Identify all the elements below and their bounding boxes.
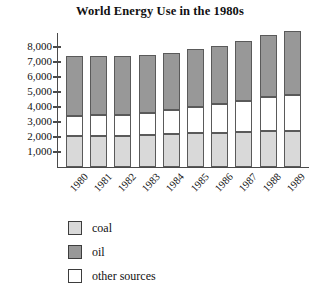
legend-swatch-icon	[68, 269, 82, 283]
plot-area: 1,0002,0003,0004,0005,0006,0007,0008,000…	[0, 0, 320, 180]
y-axis-tick-label: 1,000	[0, 146, 52, 157]
legend-item-coal: coal	[68, 216, 298, 240]
stacked-bar	[163, 0, 180, 167]
bar-segment-coal	[187, 133, 204, 167]
bar-segment-other-sources	[235, 101, 252, 132]
legend-item-oil: oil	[68, 240, 298, 264]
stacked-bar	[66, 0, 83, 167]
x-axis-line	[57, 167, 309, 168]
bar-segment-coal	[90, 136, 107, 168]
bar-segment-oil	[66, 56, 83, 116]
y-axis-tick-mark	[53, 61, 61, 62]
bar-segment-oil	[163, 53, 180, 110]
y-axis-tick-label: 5,000	[0, 86, 52, 97]
bar-segment-other-sources	[114, 115, 131, 136]
y-axis-tick-label: 7,000	[0, 56, 52, 67]
legend-item-other-sources: other sources	[68, 264, 298, 288]
stacked-bar	[235, 0, 252, 167]
y-axis-tick-mark	[53, 46, 61, 47]
legend-label: coal	[92, 221, 112, 236]
legend-swatch-icon	[68, 245, 82, 259]
stacked-bar	[211, 0, 228, 167]
chart-legend: coaloilother sources	[68, 216, 298, 288]
bar-segment-other-sources	[163, 110, 180, 134]
bar-segment-oil	[139, 55, 156, 113]
y-axis-tick-label: 6,000	[0, 71, 52, 82]
bar-segment-oil	[260, 35, 277, 97]
y-axis-tick-label: 4,000	[0, 101, 52, 112]
bar-segment-coal	[114, 136, 131, 168]
bar-segment-oil	[284, 31, 301, 96]
bar-segment-coal	[211, 133, 228, 168]
bar-segment-oil	[211, 46, 228, 104]
stacked-bar	[90, 0, 107, 167]
y-axis-tick-label: 3,000	[0, 116, 52, 127]
bar-segment-oil	[114, 56, 131, 115]
bar-segment-other-sources	[284, 95, 301, 131]
y-axis-tick-mark	[53, 136, 61, 137]
bar-segment-other-sources	[90, 115, 107, 135]
bar-segment-coal	[139, 135, 156, 167]
y-axis-tick-mark	[53, 91, 61, 92]
bar-segment-coal	[66, 136, 83, 168]
bar-segment-coal	[163, 134, 180, 167]
bar-segment-other-sources	[211, 104, 228, 133]
stacked-bar	[187, 0, 204, 167]
stacked-bar	[260, 0, 277, 167]
legend-swatch-icon	[68, 221, 82, 235]
bar-segment-other-sources	[187, 107, 204, 133]
y-axis-line	[57, 33, 58, 168]
bar-segment-coal	[235, 132, 252, 167]
y-axis-tick-mark	[53, 106, 61, 107]
bar-segment-other-sources	[139, 113, 156, 135]
chart-container: World Energy Use in the 1980s 1,0002,000…	[0, 0, 320, 304]
stacked-bar	[139, 0, 156, 167]
y-axis-tick-label: 2,000	[0, 131, 52, 142]
bar-segment-other-sources	[260, 97, 277, 131]
stacked-bar	[114, 0, 131, 167]
bar-segment-oil	[235, 41, 252, 101]
y-axis-tick-label: 8,000	[0, 41, 52, 52]
bar-segment-other-sources	[66, 116, 83, 136]
y-axis-tick-mark	[53, 76, 61, 77]
y-axis-tick-mark	[53, 151, 61, 152]
bar-segment-coal	[260, 131, 277, 167]
legend-label: oil	[92, 245, 105, 260]
legend-label: other sources	[92, 269, 156, 284]
bar-segment-oil	[187, 49, 204, 107]
bar-segment-coal	[284, 131, 301, 167]
stacked-bar	[284, 0, 301, 167]
bar-segment-oil	[90, 56, 107, 115]
y-axis-tick-mark	[53, 121, 61, 122]
